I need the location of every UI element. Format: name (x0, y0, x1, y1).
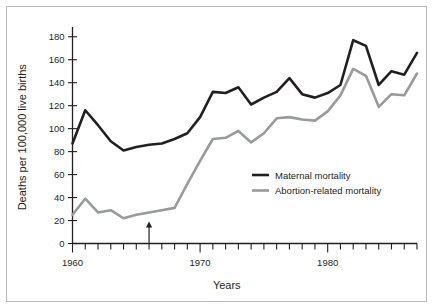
arrow-head (146, 222, 152, 228)
y-axis-tick-label: 40 (54, 192, 65, 203)
x-axis-tick-label: 1970 (190, 257, 211, 268)
y-axis-tick-label: 120 (49, 100, 65, 111)
y-axis-tick-label: 20 (54, 215, 65, 226)
y-axis-tick-label: 60 (54, 169, 65, 180)
x-axis-tick-label: 1980 (317, 257, 338, 268)
y-axis-title: Deaths per 100,000 live births (16, 64, 28, 211)
year-marker-arrow (146, 222, 152, 244)
y-axis-tick-label: 140 (49, 77, 65, 88)
y-axis-tick-label: 0 (59, 238, 64, 249)
legend-item: Abortion-related mortality (252, 185, 381, 196)
y-axis-tick-label: 80 (54, 146, 65, 157)
figure-container: 020406080100120140160180196019701980Year… (0, 0, 433, 308)
legend-label: Maternal mortality (275, 170, 351, 181)
x-axis-tick-label: 1960 (62, 257, 83, 268)
x-axis-title: Years (213, 279, 241, 291)
y-axis-tick-label: 180 (49, 31, 65, 42)
line-chart: 020406080100120140160180196019701980Year… (0, 0, 433, 308)
series-line-maternal-mortality (73, 40, 418, 150)
y-axis-tick-label: 100 (49, 123, 65, 134)
legend-item: Maternal mortality (252, 170, 351, 181)
y-axis-tick-label: 160 (49, 54, 65, 65)
legend-label: Abortion-related mortality (275, 185, 381, 196)
